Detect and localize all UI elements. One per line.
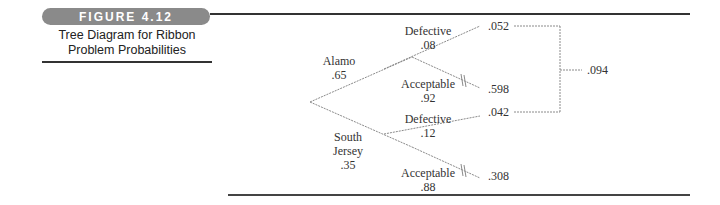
joint-sj-defective: .042 xyxy=(488,105,509,119)
label-alamo-acceptable: Acceptable .92 xyxy=(401,77,455,105)
joint-alamo-defective: .052 xyxy=(488,19,509,33)
label-alamo-defective: Defective .08 xyxy=(405,24,452,52)
label-sj-defective: Defective .12 xyxy=(405,112,452,140)
tree-lines xyxy=(0,0,720,205)
cut-marks xyxy=(461,74,466,177)
joint-alamo-acceptable: .598 xyxy=(488,82,509,96)
label-south-jersey: South Jersey .35 xyxy=(333,130,363,172)
total-defective: .094 xyxy=(587,63,608,77)
joint-sj-acceptable: .308 xyxy=(488,169,509,183)
label-alamo: Alamo .65 xyxy=(323,54,356,82)
label-sj-acceptable: Acceptable .88 xyxy=(401,166,455,194)
